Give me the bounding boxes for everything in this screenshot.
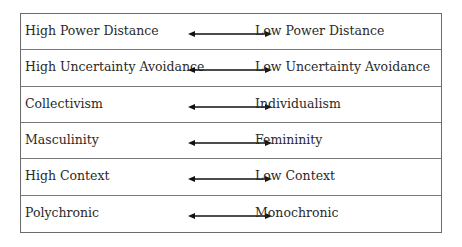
left-pole-label: High Power Distance [25, 23, 159, 38]
right-pole-label: Low Context [255, 168, 335, 183]
left-pole-label: Masculinity [25, 132, 99, 147]
left-pole-label: Polychronic [25, 205, 99, 220]
dimension-row: High Uncertainty Avoidance Low Uncertain… [21, 50, 441, 86]
left-pole-label: High Context [25, 168, 110, 183]
dimension-row: Polychronic Monochronic [21, 196, 441, 232]
right-pole-label: Low Uncertainty Avoidance [255, 59, 430, 74]
right-pole-label: Individualism [255, 96, 341, 111]
dimension-row: Masculinity Femininity [21, 123, 441, 159]
cultural-dimensions-table: High Power Distance Low Power Distance H… [20, 13, 442, 233]
dimension-row: High Power Distance Low Power Distance [21, 14, 441, 50]
left-pole-label: High Uncertainty Avoidance [25, 59, 204, 74]
right-pole-label: Monochronic [255, 205, 339, 220]
dimension-row: High Context Low Context [21, 159, 441, 195]
dimension-row: Collectivism Individualism [21, 87, 441, 123]
right-pole-label: Femininity [255, 132, 322, 147]
left-pole-label: Collectivism [25, 96, 103, 111]
right-pole-label: Low Power Distance [255, 23, 384, 38]
